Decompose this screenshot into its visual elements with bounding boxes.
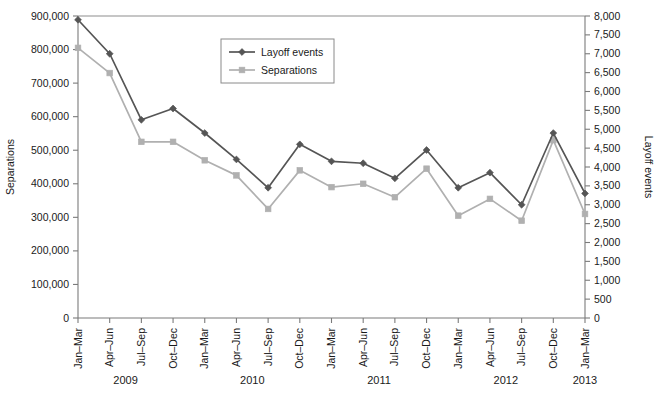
data-point-marker	[328, 158, 335, 165]
right-axis-tick-label: 6,000	[594, 85, 620, 97]
left-axis-title: Separations	[4, 139, 16, 195]
right-axis-tick-label: 7,500	[594, 28, 620, 40]
left-axis-separations: 0100,000200,000300,000400,000500,000600,…	[4, 10, 78, 324]
left-axis-tick-label: 800,000	[31, 43, 69, 55]
right-axis-tick-label: 1,500	[594, 255, 620, 267]
x-axis-tick-label: Apr–Jun	[484, 328, 496, 367]
data-point-marker	[360, 160, 367, 167]
right-axis-tick-label: 6,500	[594, 66, 620, 78]
x-axis-tick-label: Oct–Dec	[293, 328, 305, 369]
x-axis-tick-label: Apr–Jun	[230, 328, 242, 367]
left-axis-tick-label: 300,000	[31, 211, 69, 223]
right-axis-tick-label: 8,000	[594, 10, 620, 22]
x-axis-year-label: 2011	[367, 374, 391, 386]
x-axis-tick-label: Apr–Jun	[357, 328, 369, 367]
x-axis-tick-label: Jan–Mar	[198, 328, 210, 369]
data-point-marker	[139, 139, 145, 145]
data-point-marker	[138, 116, 145, 123]
right-axis-tick-label: 4,000	[594, 161, 620, 173]
x-axis-year-label: 2012	[494, 374, 518, 386]
x-axis-tick-label: Jan–Mar	[72, 328, 84, 369]
x-axis-tick-label: Jan–Mar	[452, 328, 464, 369]
x-axis-tick-label: Jul–Sep	[262, 328, 274, 366]
data-point-marker	[455, 213, 461, 219]
right-axis-title: Layoff events	[643, 136, 655, 198]
left-axis-tick-label: 200,000	[31, 244, 69, 256]
data-point-marker	[75, 45, 81, 51]
data-point-marker	[239, 67, 245, 73]
left-axis-tick-label: 600,000	[31, 110, 69, 122]
chart-legend: Layoff eventsSeparations	[221, 39, 334, 83]
right-axis-tick-label: 2,000	[594, 236, 620, 248]
data-point-marker	[392, 194, 398, 200]
data-point-marker	[202, 157, 208, 163]
x-axis-year-label: 2013	[573, 374, 597, 386]
right-axis-tick-label: 7,000	[594, 47, 620, 59]
right-axis-tick-label: 3,000	[594, 198, 620, 210]
data-point-marker	[360, 181, 366, 187]
x-axis-tick-label: Oct–Dec	[167, 328, 179, 369]
right-axis-tick-label: 0	[594, 312, 600, 324]
chart-container: 0100,000200,000300,000400,000500,000600,…	[0, 0, 655, 393]
right-axis-tick-label: 4,500	[594, 142, 620, 154]
data-point-marker	[487, 196, 493, 202]
x-axis-tick-label: Jul–Sep	[388, 328, 400, 366]
data-point-marker	[265, 206, 271, 212]
dual-axis-line-chart: 0100,000200,000300,000400,000500,000600,…	[0, 0, 655, 393]
data-point-marker	[170, 139, 176, 145]
right-axis-tick-label: 1,000	[594, 274, 620, 286]
data-point-marker	[297, 168, 303, 174]
x-axis-tick-label: Jul–Sep	[135, 328, 147, 366]
right-axis-tick-label: 500	[594, 293, 612, 305]
legend-label: Layoff events	[261, 46, 323, 58]
data-point-marker	[550, 130, 557, 137]
legend-label: Separations	[261, 64, 317, 76]
right-axis-layoff-events: 05001,0001,5002,0002,5003,0003,5004,0004…	[585, 10, 655, 324]
right-axis-tick-label: 2,500	[594, 217, 620, 229]
left-axis-tick-label: 900,000	[31, 10, 69, 22]
x-axis-tick-label: Jul–Sep	[515, 328, 527, 366]
data-point-marker	[424, 166, 430, 172]
data-point-marker	[582, 190, 589, 197]
right-axis-tick-label: 5,000	[594, 123, 620, 135]
data-point-marker	[234, 173, 240, 179]
right-axis-tick-label: 5,500	[594, 104, 620, 116]
x-axis-tick-label: Jan–Mar	[325, 328, 337, 369]
x-axis-year-label: 2009	[113, 374, 137, 386]
x-axis-tick-label: Apr–Jun	[103, 328, 115, 367]
left-axis-tick-label: 100,000	[31, 278, 69, 290]
data-point-marker	[107, 70, 113, 76]
x-axis-tick-label: Jan–Mar	[579, 328, 591, 369]
x-axis-year-label: 2010	[240, 374, 264, 386]
left-axis-tick-label: 400,000	[31, 177, 69, 189]
data-point-marker	[329, 184, 335, 190]
data-point-marker	[519, 218, 525, 224]
left-axis-tick-label: 0	[63, 312, 69, 324]
x-axis-tick-label: Oct–Dec	[547, 328, 559, 369]
left-axis-tick-label: 500,000	[31, 144, 69, 156]
data-point-marker	[582, 211, 588, 217]
left-axis-tick-label: 700,000	[31, 77, 69, 89]
right-axis-tick-label: 3,500	[594, 179, 620, 191]
x-axis-tick-label: Oct–Dec	[420, 328, 432, 369]
x-axis-quarters: Jan–MarApr–JunJul–SepOct–DecJan–MarApr–J…	[72, 318, 598, 386]
